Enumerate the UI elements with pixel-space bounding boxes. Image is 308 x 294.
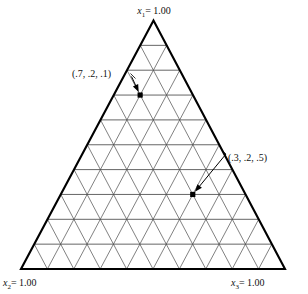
grid-line-constant-x3 (259, 244, 272, 269)
grid-line-constant-x3 (100, 95, 193, 269)
vertex-label-x3-eq: = 1.00 (239, 277, 265, 288)
grid-line-constant-x2 (61, 194, 100, 269)
grid-line-constant-x2 (34, 244, 47, 269)
annotation-arrow-point-1-head (133, 84, 139, 92)
annotation-label-point-1: (.7, .2, .1) (72, 68, 111, 80)
vertex-label-x2: x2= 1.00 (2, 277, 37, 291)
ternary-diagram-figure: x1= 1.00 x2= 1.00 x3= 1.00 (.7, .2, .1) … (0, 0, 308, 294)
grid-line-constant-x2 (87, 145, 153, 269)
grid-line-constant-x3 (153, 145, 219, 269)
vertex-label-x2-eq: = 1.00 (11, 277, 37, 288)
grid-line-constant-x2 (114, 95, 206, 269)
vertex-label-x3: x3= 1.00 (230, 277, 265, 291)
annotation-label-point-2: (.3, .2, .5) (228, 152, 267, 164)
vertex-label-x1: x1= 1.00 (136, 5, 171, 19)
ternary-plot-canvas: x1= 1.00 x2= 1.00 x3= 1.00 (.7, .2, .1) … (0, 0, 308, 294)
data-point-marker (138, 92, 143, 97)
vertex-label-x1-eq: = 1.00 (145, 5, 171, 16)
grid-line-constant-x3 (206, 194, 246, 269)
annotation-arrow-point-2-shaft (198, 154, 226, 188)
data-point-marker (190, 192, 195, 197)
